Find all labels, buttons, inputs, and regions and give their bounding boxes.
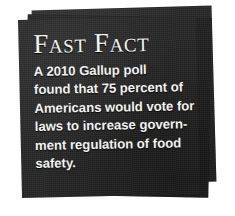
fast-fact-callout: Fast Fact A 2010 Gallup poll found that … <box>0 0 235 216</box>
fast-fact-title: Fast Fact <box>33 27 201 59</box>
callout-content: Fast Fact A 2010 Gallup poll found that … <box>33 27 204 190</box>
fast-fact-body-line: laws to increase govern- <box>35 115 203 136</box>
fast-fact-body: A 2010 Gallup poll found that 75 percent… <box>34 60 204 173</box>
fast-fact-body-line: safety. <box>35 152 203 173</box>
fast-fact-body-line: ment regulation of food <box>35 134 203 155</box>
